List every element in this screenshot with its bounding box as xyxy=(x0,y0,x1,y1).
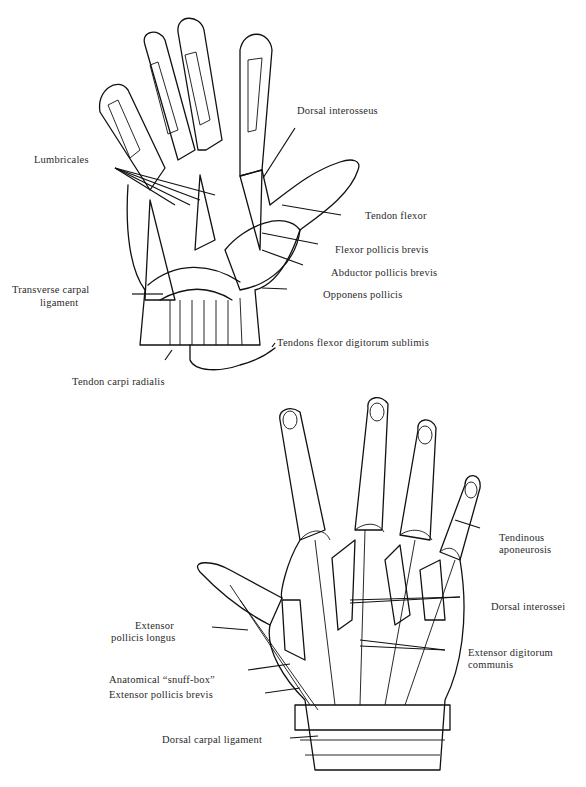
label-dorsal-carpal-ligament: Dorsal carpal ligament xyxy=(162,733,262,746)
label-dorsal-interosseus: Dorsal interosseus xyxy=(297,104,378,117)
dorsal-hand-drawing xyxy=(197,398,480,770)
label-transverse-carpal-ligament: ligament xyxy=(40,296,78,309)
label-flexor-pollicis-brevis: Flexor pollicis brevis xyxy=(335,243,429,256)
label-aponeurosis: aponeurosis xyxy=(499,543,551,556)
label-extensor-pollicis-brevis: Extensor pollicis brevis xyxy=(109,688,213,701)
label-transverse-carpal: Transverse carpal xyxy=(12,283,89,296)
label-tendon-flexor: Tendon flexor xyxy=(365,209,427,222)
anatomy-figure: Dorsal interosseus Lumbricales Tendon fl… xyxy=(0,0,586,787)
label-anatomical-snuff-box: Anatomical “snuff-box” xyxy=(109,673,215,686)
label-pollicis-longus: pollicis longus xyxy=(111,631,176,644)
label-opponens-pollicis: Opponens pollicis xyxy=(323,288,403,301)
label-communis: communis xyxy=(468,658,513,671)
label-dorsal-interossei: Dorsal interossei xyxy=(491,600,565,613)
label-tendons-flexor-digitorum-sublimis: Tendons flexor digitorum sublimis xyxy=(277,336,429,349)
label-tendon-carpi-radialis: Tendon carpi radialis xyxy=(72,375,165,388)
palmar-hand-drawing xyxy=(100,18,359,370)
label-abductor-pollicis-brevis: Abductor pollicis brevis xyxy=(331,266,437,279)
label-lumbricales: Lumbricales xyxy=(34,153,89,166)
